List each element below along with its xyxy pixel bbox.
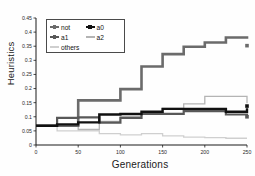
chart-figure: Heuristics Generations 00.050.10.150.20.… bbox=[0, 0, 255, 176]
dash-marker-icon bbox=[50, 46, 59, 48]
x-tick-label: 200 bbox=[200, 149, 209, 155]
legend-row: a1 a2 bbox=[50, 32, 121, 42]
legend-row: not a0 bbox=[50, 22, 121, 32]
legend-entry-a0: a0 bbox=[86, 23, 122, 32]
y-tick-label: 0.1 bbox=[25, 114, 32, 120]
y-tick-label: 0.4 bbox=[25, 29, 32, 35]
legend-entry-a1: a1 bbox=[50, 33, 86, 42]
legend-entry-others: others bbox=[50, 43, 89, 52]
legend-entry-a2: a2 bbox=[86, 33, 122, 42]
x-tick-group: 050100150200250 bbox=[35, 145, 252, 155]
endpoint-marker-a0 bbox=[245, 104, 249, 108]
marker-dot-icon bbox=[53, 25, 57, 30]
y-tick-label: 0.25 bbox=[22, 71, 32, 77]
series-line-others bbox=[36, 126, 247, 138]
y-tick-label: 0.3 bbox=[25, 57, 32, 63]
y-tick-label: 0.2 bbox=[25, 85, 32, 91]
left-arrow-marker-icon bbox=[50, 36, 59, 38]
legend-entry-not: not bbox=[50, 23, 86, 32]
y-tick-group: 00.050.10.150.20.250.30.350.40.45 bbox=[22, 15, 36, 148]
legend-label: others bbox=[61, 43, 79, 52]
x-tick-label: 0 bbox=[35, 149, 38, 155]
legend-label: not bbox=[61, 23, 70, 32]
legend: not a0 a1 a2 others bbox=[46, 19, 125, 53]
marker-dot-icon bbox=[88, 25, 92, 30]
y-tick-label: 0 bbox=[29, 142, 32, 148]
legend-label: a2 bbox=[97, 33, 104, 42]
plot-area: 00.050.10.150.20.250.30.350.40.45 050100… bbox=[0, 0, 255, 176]
marker-dot-icon bbox=[53, 35, 57, 40]
left-arrow-marker-icon bbox=[50, 26, 59, 28]
y-tick-label: 0.15 bbox=[22, 100, 32, 106]
y-tick-label: 0.05 bbox=[22, 128, 32, 134]
legend-label: a0 bbox=[97, 23, 104, 32]
x-tick-label: 250 bbox=[243, 149, 252, 155]
y-tick-label: 0.35 bbox=[22, 43, 32, 49]
left-arrow-marker-icon bbox=[86, 26, 95, 28]
dash-marker-icon bbox=[86, 36, 95, 38]
legend-row: others bbox=[50, 42, 121, 52]
endpoint-marker-a1 bbox=[245, 115, 249, 119]
x-tick-label: 100 bbox=[116, 149, 125, 155]
legend-label: a1 bbox=[61, 33, 68, 42]
x-tick-label: 50 bbox=[75, 149, 81, 155]
endpoint-marker-group bbox=[245, 44, 249, 119]
y-tick-label: 0.45 bbox=[22, 15, 32, 21]
x-tick-label: 150 bbox=[158, 149, 167, 155]
endpoint-marker-not bbox=[245, 44, 249, 48]
